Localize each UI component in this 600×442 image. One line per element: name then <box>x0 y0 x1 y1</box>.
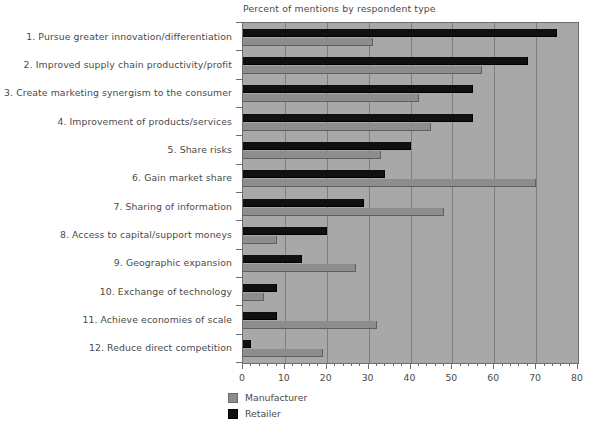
bar-retailer <box>243 57 528 65</box>
bar-retailer <box>243 255 302 263</box>
x-axis-tick-label: 60 <box>487 372 499 383</box>
legend-swatch-icon <box>228 409 238 419</box>
bar-manufacturer <box>243 151 381 159</box>
x-axis-minor-tick <box>309 363 310 366</box>
x-axis-tick-label: 10 <box>278 372 290 383</box>
bar-group <box>243 193 578 221</box>
bar-retailer <box>243 312 277 320</box>
x-axis-major-tick <box>368 363 369 369</box>
x-axis-minor-tick <box>317 363 318 366</box>
category-label-axis: 1. Pursue greater innovation/differentia… <box>0 22 238 362</box>
x-axis-major-tick <box>493 363 494 369</box>
x-axis-minor-tick <box>510 363 511 366</box>
category-label: 9. Geographic expansion <box>114 257 232 268</box>
x-axis-minor-tick <box>343 363 344 366</box>
bar-manufacturer <box>243 208 444 216</box>
x-axis-minor-tick <box>376 363 377 366</box>
legend: ManufacturerRetailer <box>228 392 307 419</box>
bar-group <box>243 108 578 136</box>
x-axis-tick-label: 20 <box>320 372 332 383</box>
x-axis-minor-tick <box>250 363 251 366</box>
x-axis-minor-tick <box>518 363 519 366</box>
category-label: 10. Exchange of technology <box>100 286 232 297</box>
x-axis-minor-tick <box>393 363 394 366</box>
bar-retailer <box>243 170 385 178</box>
category-label: 1. Pursue greater innovation/differentia… <box>26 31 232 42</box>
x-axis-minor-tick <box>443 363 444 366</box>
x-axis-tick-label: 80 <box>571 372 583 383</box>
category-label-row: 6. Gain market share <box>0 164 238 192</box>
category-label: 4. Improvement of products/services <box>57 116 232 127</box>
bar-group <box>243 23 578 51</box>
category-label-row: 2. Improved supply chain productivity/pr… <box>0 50 238 78</box>
x-axis-minor-tick <box>401 363 402 366</box>
category-label-row: 10. Exchange of technology <box>0 277 238 305</box>
x-axis-tick-label: 0 <box>239 372 245 383</box>
category-label: 3. Create marketing synergism to the con… <box>4 87 232 98</box>
x-axis-minor-tick <box>426 363 427 366</box>
x-axis-minor-tick <box>418 363 419 366</box>
bar-retailer <box>243 142 411 150</box>
x-axis-minor-tick <box>435 363 436 366</box>
legend-swatch-icon <box>228 393 238 403</box>
bar-group <box>243 250 578 278</box>
x-axis-major-tick <box>242 363 243 369</box>
bar-retailer <box>243 29 557 37</box>
bar-group <box>243 165 578 193</box>
bar-retailer <box>243 284 277 292</box>
bar-group <box>243 306 578 334</box>
bar-manufacturer <box>243 236 277 244</box>
x-axis-minor-tick <box>468 363 469 366</box>
bar-manufacturer <box>243 264 356 272</box>
x-axis-minor-tick <box>552 363 553 366</box>
category-label-row: 9. Geographic expansion <box>0 249 238 277</box>
bar-retailer <box>243 85 473 93</box>
bar-manufacturer <box>243 293 264 301</box>
x-axis-minor-tick <box>276 363 277 366</box>
x-axis-minor-tick <box>301 363 302 366</box>
x-axis-minor-tick <box>569 363 570 366</box>
category-label: 12. Reduce direct competition <box>89 342 232 353</box>
category-label-row: 8. Access to capital/support moneys <box>0 220 238 248</box>
bar-retailer <box>243 340 251 348</box>
x-axis-minor-tick <box>359 363 360 366</box>
legend-item: Manufacturer <box>228 392 307 403</box>
x-axis-major-tick <box>577 363 578 369</box>
bar-chart-figure: Percent of mentions by respondent type 1… <box>0 0 600 442</box>
bar-retailer <box>243 227 327 235</box>
plot-area <box>242 22 579 364</box>
category-label: 7. Sharing of information <box>113 201 232 212</box>
category-label: 2. Improved supply chain productivity/pr… <box>24 59 232 70</box>
bar-retailer <box>243 199 364 207</box>
x-axis-minor-tick <box>292 363 293 366</box>
x-axis-major-tick <box>535 363 536 369</box>
bar-retailer <box>243 114 473 122</box>
bar-manufacturer <box>243 349 323 357</box>
category-label: 11. Achieve economies of scale <box>82 314 232 325</box>
chart-title: Percent of mentions by respondent type <box>243 3 436 14</box>
bar-manufacturer <box>243 179 536 187</box>
x-axis-minor-tick <box>560 363 561 366</box>
bar-manufacturer <box>243 66 482 74</box>
category-label: 5. Share risks <box>168 144 233 155</box>
x-axis-minor-tick <box>351 363 352 366</box>
bar-manufacturer <box>243 123 431 131</box>
x-axis-minor-tick <box>267 363 268 366</box>
legend-label: Manufacturer <box>245 392 307 403</box>
x-axis-tick-label: 30 <box>362 372 374 383</box>
x-axis-major-tick <box>410 363 411 369</box>
x-axis-minor-tick <box>334 363 335 366</box>
bar-manufacturer <box>243 38 373 46</box>
x-axis-minor-tick <box>502 363 503 366</box>
category-label-row: 7. Sharing of information <box>0 192 238 220</box>
bar-group <box>243 335 578 363</box>
bar-groups <box>243 23 578 363</box>
bar-manufacturer <box>243 94 419 102</box>
category-label-row: 11. Achieve economies of scale <box>0 305 238 333</box>
x-axis-major-tick <box>451 363 452 369</box>
category-label-row: 1. Pursue greater innovation/differentia… <box>0 22 238 50</box>
category-label-row: 5. Share risks <box>0 135 238 163</box>
x-axis-minor-tick <box>384 363 385 366</box>
x-axis-minor-tick <box>477 363 478 366</box>
category-label-row: 3. Create marketing synergism to the con… <box>0 79 238 107</box>
